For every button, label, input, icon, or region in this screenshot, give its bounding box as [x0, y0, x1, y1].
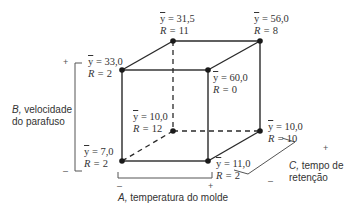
axis-b-plus: +	[63, 57, 68, 67]
axis-c-plus: +	[323, 143, 328, 153]
axis-a-minus: –	[117, 181, 122, 191]
axis-a-plus: +	[208, 181, 213, 191]
vertex-label-front-top-right: y = 60,0 R = 0	[213, 72, 248, 96]
axis-c-label: C, tempo de retenção	[289, 160, 343, 184]
vertex-label-front-bottom-right: y = 11,0 R = 2	[216, 158, 250, 182]
vertex-label-front-bottom-left: y = 7,0 R = 2	[84, 146, 114, 170]
axis-c-minus: –	[268, 176, 273, 186]
vertex-label-back-bottom-right: y = 10,0 R = 10	[268, 121, 303, 145]
vertex-label-back-bottom-left: y = 10,0 R = 12	[133, 111, 168, 135]
a-axis-bracket	[118, 172, 212, 178]
vertex-label-back-top-left: y = 31,5 R = 11	[160, 13, 195, 37]
vertex-label-back-top-right: y = 56,0 R = 8	[254, 13, 289, 37]
vertex-dots	[119, 38, 263, 164]
vertex-label-front-top-left: y = 33,0 R = 2	[88, 56, 123, 80]
axis-b-label: B, velocidade do parafuso	[12, 104, 72, 128]
axis-b-minus: –	[63, 166, 68, 176]
visible-edges	[122, 41, 260, 161]
b-axis-bracket	[75, 63, 82, 171]
axis-a-label: A, temperatura do molde	[118, 192, 228, 204]
